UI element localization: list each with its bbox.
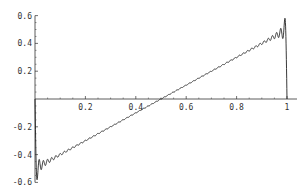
- x-tick-label: 1: [285, 103, 290, 112]
- y-tick-label: 0.4: [18, 39, 33, 48]
- x-tick-label: 0.8: [229, 103, 244, 112]
- y-tick-label: -0.2: [13, 123, 32, 132]
- y-tick-label: -0.6: [13, 178, 32, 187]
- x-tick-label: 0.6: [179, 103, 194, 112]
- y-tick-label: 0.6: [18, 12, 33, 21]
- x-tick-label: 0.2: [78, 103, 93, 112]
- y-tick-label: 0.2: [18, 67, 33, 76]
- sawtooth-fourier-chart: 0.20.40.60.81-0.6-0.4-0.20.20.40.6: [0, 0, 304, 195]
- axes: [35, 16, 297, 183]
- tick-labels: 0.20.40.60.81-0.6-0.4-0.20.20.40.6: [13, 12, 290, 188]
- y-tick-label: -0.4: [13, 151, 32, 160]
